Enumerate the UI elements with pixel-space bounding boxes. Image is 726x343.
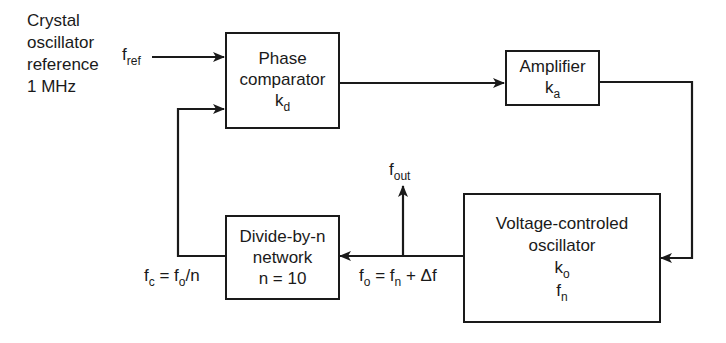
fref-label: fref: [122, 44, 141, 67]
vco-gain-sub: o: [563, 267, 570, 281]
fc-eq: =: [155, 266, 174, 285]
feedback-arrow: [178, 109, 225, 256]
pc-line1: Phase: [258, 48, 306, 69]
fo-eq: =: [370, 266, 389, 285]
source-line-1: Crystal: [27, 10, 99, 32]
fref-sub: ref: [127, 54, 141, 68]
div-line1: Divide-by-n: [240, 226, 326, 247]
fc-rhs-tail: /n: [186, 266, 200, 285]
vco-gain: ko: [554, 257, 569, 280]
pc-gain: kd: [275, 90, 290, 113]
vco-freq: fn: [556, 280, 567, 303]
crystal-oscillator-label: Crystal oscillator reference 1 MHz: [27, 10, 99, 98]
fo-rhs-tail: + Δf: [401, 266, 436, 285]
pc-line2: comparator: [240, 69, 326, 90]
fc-rhs-sub: o: [179, 275, 186, 289]
fo-rhs-sub: n: [395, 275, 402, 289]
fc-equation: fc = fo/n: [144, 265, 200, 288]
vco-line1: Voltage-controled: [496, 213, 628, 235]
div-line2: network: [253, 247, 313, 268]
source-line-2: oscillator: [27, 32, 99, 54]
fout-sub: out: [394, 169, 411, 183]
pc-gain-sub: d: [283, 100, 290, 114]
fo-lhs-sub: o: [364, 275, 371, 289]
fc-lhs-sub: c: [149, 275, 155, 289]
vco-block: Voltage-controled oscillator ko fn: [463, 193, 661, 323]
amp-gain: ka: [545, 77, 560, 100]
amplifier-block: Amplifier ka: [505, 50, 600, 106]
source-line-4: 1 MHz: [27, 76, 99, 98]
amp-line1: Amplifier: [519, 56, 585, 77]
fo-rhs-base: f: [390, 266, 395, 285]
vco-line2: oscillator: [528, 235, 595, 257]
phase-comparator-block: Phase comparator kd: [225, 32, 340, 129]
divide-by-n-block: Divide-by-n network n = 10: [225, 215, 340, 300]
div-line3: n = 10: [259, 268, 307, 289]
vco-freq-sub: n: [561, 290, 568, 304]
amp-gain-sub: a: [553, 87, 560, 101]
vco-gain-base: k: [554, 258, 563, 277]
fo-equation: fo = fn + Δf: [359, 265, 437, 288]
fout-label: fout: [389, 159, 410, 182]
source-line-3: reference: [27, 54, 99, 76]
